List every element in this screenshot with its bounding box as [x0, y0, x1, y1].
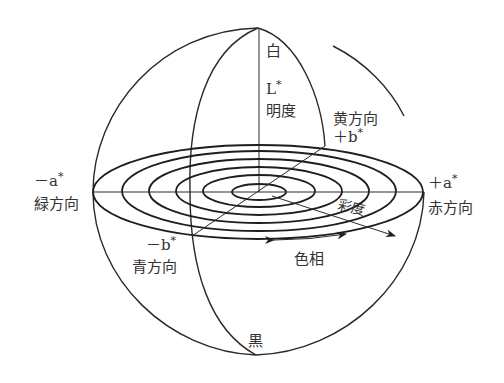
label-chroma: 彩度 — [336, 196, 367, 218]
label-lightness: 明度 — [266, 102, 296, 120]
label-green-direction: 緑方向 — [34, 195, 79, 213]
label-plus-a-star: ＋a* — [428, 172, 458, 192]
label-black: 黒 — [248, 332, 263, 350]
label-white: 白 — [266, 42, 281, 60]
lab-color-sphere-diagram: 白 L* 明度 黄方向 ＋b* －a* 緑方向 ＋a* 赤方向 －b* 青方向 … — [0, 0, 504, 383]
label-red-direction: 赤方向 — [428, 199, 473, 217]
label-plus-b-star: ＋b* — [333, 126, 364, 146]
sphere-outline-upper-right-arc — [333, 46, 404, 116]
label-minus-a-star: －a* — [34, 170, 64, 190]
label-hue: 色相 — [294, 250, 324, 268]
label-l-star: L* — [266, 78, 282, 98]
label-minus-b-star: －b* — [146, 234, 177, 254]
label-yellow-direction: 黄方向 — [333, 110, 378, 128]
label-blue-direction: 青方向 — [132, 258, 177, 276]
